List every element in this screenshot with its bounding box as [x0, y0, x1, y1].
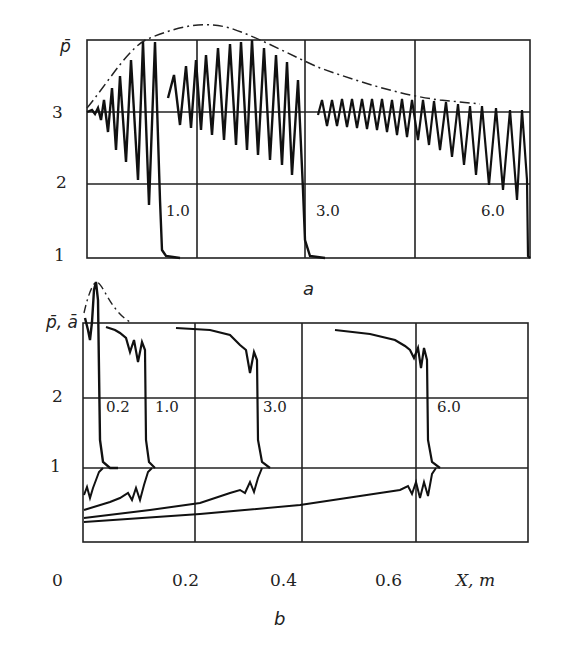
chart-canvas-b [0, 0, 571, 662]
x-tick-0: 0 [52, 570, 63, 590]
panel-b-ytick-2: 2 [52, 386, 63, 406]
panel-b-curve-label-10: 1.0 [155, 398, 179, 416]
panel-b-a-10 [84, 468, 152, 510]
panel-b-label: b [274, 608, 285, 629]
panel-b-curve-label-60: 6.0 [437, 398, 461, 416]
panel-b-ytick-1: 1 [50, 456, 61, 476]
x-tick-04: 0.4 [270, 570, 297, 590]
panel-b-curve-02 [85, 282, 118, 468]
x-tick-02: 0.2 [172, 570, 199, 590]
panel-b-curve-60 [335, 330, 440, 468]
panel-b-curve-label-02: 0.2 [106, 398, 130, 416]
panel-b-curve-label-30: 3.0 [263, 398, 287, 416]
panel-b-a-02 [84, 468, 103, 498]
panel-b-ylabel: p̄, ā [46, 312, 78, 332]
panel-b-a-60 [84, 468, 436, 522]
x-tick-06: 0.6 [375, 570, 402, 590]
x-axis-label: X, m [456, 570, 495, 590]
panel-b-envelope [84, 282, 130, 322]
